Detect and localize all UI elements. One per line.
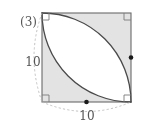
midpoint-dot-right-edge	[129, 55, 134, 60]
midpoint-dot-bottom-edge	[84, 100, 89, 105]
shaded-region-group	[42, 13, 131, 102]
geometry-figure: (3) 10 10	[0, 0, 143, 124]
bottom-side-length-label: 10	[79, 109, 94, 123]
left-side-length-label: 10	[25, 55, 40, 69]
shaded-region	[42, 13, 131, 102]
problem-number-label: (3)	[20, 15, 37, 29]
figure-canvas: (3) 10 10	[0, 0, 143, 124]
